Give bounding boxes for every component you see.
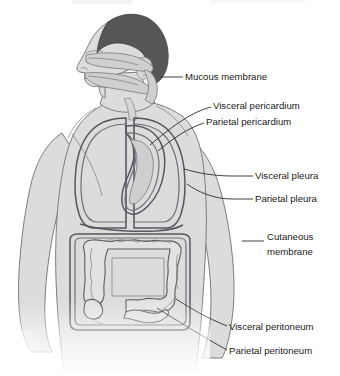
label-parietal-pleura: Parietal pleura: [255, 193, 318, 204]
body-membranes-figure: Mucous membrane Visceral pericardium Par…: [0, 0, 340, 376]
label-cutaneous-membrane-line2: membrane: [267, 246, 313, 257]
label-parietal-peritoneum: Parietal peritoneum: [229, 345, 312, 356]
label-visceral-pericardium: Visceral pericardium: [213, 100, 300, 111]
anatomy-illustration: Mucous membrane Visceral pericardium Par…: [0, 0, 340, 376]
left-fade-mask: [0, 330, 40, 376]
label-parietal-pericardium: Parietal pericardium: [206, 116, 291, 127]
label-mucous-membrane: Mucous membrane: [185, 71, 267, 82]
label-cutaneous-membrane-line1: Cutaneous: [267, 231, 314, 242]
cropped-caption-remnant: [72, 0, 305, 4]
label-visceral-pleura: Visceral pleura: [255, 170, 319, 181]
label-visceral-peritoneum: Visceral peritoneum: [229, 321, 314, 332]
